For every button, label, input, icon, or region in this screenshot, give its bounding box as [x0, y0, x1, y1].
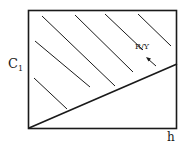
diagram-canvas: [0, 0, 187, 149]
hatch-line: [75, 15, 133, 72]
y-axis-label: C1: [8, 57, 23, 73]
hatch-line: [35, 41, 90, 87]
y-axis-subscript: 1: [18, 64, 23, 73]
plot-frame: [29, 11, 177, 129]
hatch-line: [42, 16, 115, 86]
arrow-icon: [146, 57, 156, 66]
hatch-line: [34, 78, 67, 109]
boundary-line: [29, 64, 177, 128]
x-axis-label: h: [167, 131, 175, 143]
region-label: R/Y: [135, 43, 149, 51]
